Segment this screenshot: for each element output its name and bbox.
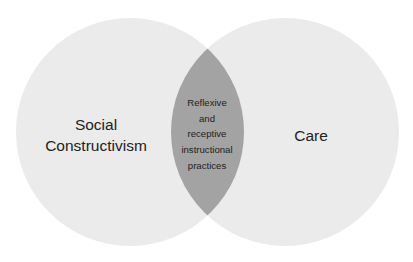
overlap-label-line-5: practices xyxy=(188,160,227,171)
left-circle-label-line-2: Constructivism xyxy=(45,137,147,154)
overlap-label-line-3: receptive xyxy=(188,128,227,139)
overlap-label-line-1: Reflexive xyxy=(187,97,226,108)
overlap-label-line-4: instructional xyxy=(181,144,232,155)
overlap-label-line-2: and xyxy=(199,113,215,124)
left-circle-label-line-1: Social xyxy=(75,116,117,133)
venn-diagram: Social Constructivism Care Reflexive and… xyxy=(0,0,413,262)
right-circle-label: Care xyxy=(294,127,328,144)
